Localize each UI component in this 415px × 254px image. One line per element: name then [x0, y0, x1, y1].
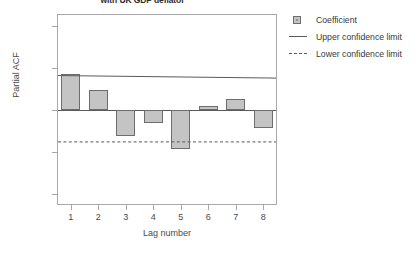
chart-title: with UK GDP deflator: [0, 0, 285, 5]
plot-area: [57, 14, 277, 205]
solid-line-icon: [288, 31, 310, 43]
x-tick-mark: [181, 205, 182, 210]
legend-item-label: Upper confidence limit: [316, 32, 402, 42]
x-tick-label: 8: [253, 212, 273, 222]
y-tick-mark: [52, 194, 57, 195]
chart-legend: Coefficient Upper confidence limit Lower…: [288, 12, 413, 63]
x-tick-mark: [236, 205, 237, 210]
legend-item-lower-confidence-limit: Lower confidence limit: [288, 46, 413, 62]
swatch-icon: [288, 14, 310, 26]
legend-item-coefficient: Coefficient: [288, 12, 413, 28]
y-tick-mark: [52, 26, 57, 27]
legend-item-label: Lower confidence limit: [316, 49, 402, 59]
x-axis-label: Lag number: [57, 228, 277, 238]
x-tick-label: 3: [116, 212, 136, 222]
x-tick-label: 1: [61, 212, 81, 222]
x-tick-label: 6: [198, 212, 218, 222]
legend-item-upper-confidence-limit: Upper confidence limit: [288, 29, 413, 45]
y-tick-mark: [52, 68, 57, 69]
x-tick-mark: [153, 205, 154, 210]
x-tick-mark: [126, 205, 127, 210]
x-tick-mark: [71, 205, 72, 210]
x-tick-label: 5: [171, 212, 191, 222]
y-tick-mark: [52, 110, 57, 111]
dashed-line-icon: [288, 48, 310, 60]
x-tick-mark: [98, 205, 99, 210]
legend-item-label: Coefficient: [316, 15, 357, 25]
x-tick-mark: [208, 205, 209, 210]
x-tick-mark: [263, 205, 264, 210]
x-tick-label: 2: [88, 212, 108, 222]
y-tick-mark: [52, 152, 57, 153]
x-tick-label: 7: [226, 212, 246, 222]
y-axis-label: Partial ACF: [11, 15, 21, 135]
x-tick-label: 4: [143, 212, 163, 222]
